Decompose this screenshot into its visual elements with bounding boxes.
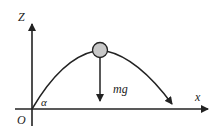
projectile-diagram: Z x O α mg (0, 0, 224, 134)
origin-label: O (17, 113, 26, 127)
angle-label: α (41, 96, 47, 108)
trajectory-curve (32, 51, 172, 109)
force-label: mg (113, 82, 128, 96)
ball (93, 43, 108, 58)
z-axis-label: Z (18, 10, 25, 24)
x-axis-label: x (194, 90, 201, 104)
